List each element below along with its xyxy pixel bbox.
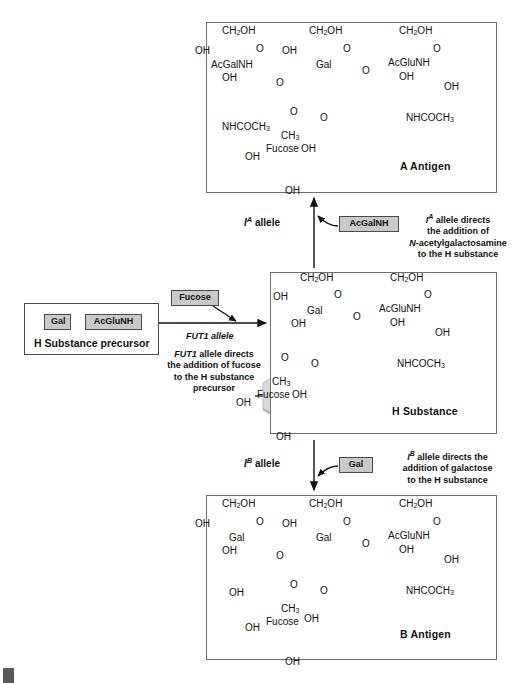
label-oh-a7: OH bbox=[245, 152, 260, 162]
ring-label-acglunh-h: AcGluNH bbox=[379, 304, 421, 314]
label-oh-b6: OH bbox=[444, 555, 459, 565]
label-oh-h7: OH bbox=[276, 432, 291, 442]
label-oh-b4: OH bbox=[282, 519, 297, 529]
label-oh-a8: OH bbox=[285, 186, 300, 196]
label-oh-h6: OH bbox=[236, 398, 251, 408]
hook-gal bbox=[318, 466, 338, 476]
label-o-link-a1: O bbox=[276, 78, 284, 88]
label-o-a4: O bbox=[433, 44, 441, 54]
diagram-canvas: A Antigen H Substance B Antigen CH2OH OH… bbox=[0, 0, 519, 683]
label-oh-b3: OH bbox=[229, 588, 244, 598]
label-o-a1: O bbox=[256, 44, 264, 54]
label-ch3-h: CH3 bbox=[272, 377, 290, 387]
label-o-b4: O bbox=[433, 517, 441, 527]
label-oh-b1: OH bbox=[195, 519, 210, 529]
label-nhcoch3-h: NHCOCH3 bbox=[397, 359, 445, 369]
ring-label-acglunh-b: AcGluNH bbox=[388, 531, 430, 541]
corner-marker bbox=[3, 668, 14, 683]
hook-fucose bbox=[213, 306, 236, 321]
label-oh-b9: OH bbox=[285, 657, 300, 667]
label-oh-b2: OH bbox=[222, 546, 237, 556]
panel-b-antigen bbox=[206, 495, 497, 660]
fut1-description: FUT1 allele directsthe addition of fucos… bbox=[156, 349, 272, 394]
ia-description: IA allele directsthe addition ofN-acetyl… bbox=[399, 213, 517, 260]
ring-label-acglunh-a: AcGluNH bbox=[388, 58, 430, 68]
chip-gal[interactable]: Gal bbox=[339, 457, 373, 473]
label-o-link-h: O bbox=[353, 312, 361, 322]
label-ch2oh-h1: CH2OH bbox=[300, 273, 333, 283]
label-ch2oh-h2: CH2OH bbox=[390, 273, 423, 283]
label-oh-a2: OH bbox=[222, 73, 237, 83]
label-o-link-a2: O bbox=[362, 66, 370, 76]
label-oh-h3: OH bbox=[390, 318, 405, 328]
panel-title-b-antigen: B Antigen bbox=[400, 628, 451, 640]
gene-label-fut1: FUT1 allele bbox=[186, 331, 234, 341]
ring-label-fucose-b: Fucose bbox=[266, 617, 299, 627]
label-oh-a6: OH bbox=[301, 144, 316, 154]
ring-label-fucose-a: Fucose bbox=[266, 144, 299, 154]
panel-h-substance bbox=[270, 272, 497, 434]
ring-label-gal-h: Gal bbox=[307, 306, 323, 316]
label-nhcoch3-a1: NHCOCH3 bbox=[222, 122, 270, 132]
panel-title-h-substance: H Substance bbox=[392, 405, 458, 417]
precursor-chip-acglunh[interactable]: AcGluNH bbox=[85, 314, 142, 330]
label-ch2oh-a2: CH2OH bbox=[309, 26, 342, 36]
label-oh-h1: OH bbox=[273, 292, 288, 302]
label-o-h1: O bbox=[334, 290, 342, 300]
hook-acgalnh bbox=[318, 216, 338, 226]
label-o-a5: O bbox=[290, 107, 298, 117]
label-o-b2: O bbox=[343, 517, 351, 527]
label-ch2oh-a1: CH2OH bbox=[222, 26, 255, 36]
label-o-b3: O bbox=[320, 586, 328, 596]
precursor-chip-gal[interactable]: Gal bbox=[44, 314, 71, 330]
allele-label-ia: IA allele bbox=[244, 215, 280, 228]
label-ch3-b: CH3 bbox=[281, 604, 299, 614]
label-o-link-b2: O bbox=[362, 539, 370, 549]
label-ch3-a: CH3 bbox=[281, 131, 299, 141]
label-oh-a5: OH bbox=[444, 82, 459, 92]
label-ch2oh-b1: CH2OH bbox=[222, 499, 255, 509]
label-nhcoch3-a2: NHCOCH3 bbox=[406, 113, 454, 123]
label-oh-a3: OH bbox=[282, 46, 297, 56]
label-oh-b8: OH bbox=[245, 623, 260, 633]
label-oh-b7: OH bbox=[304, 614, 319, 624]
ring-label-gal2-b: Gal bbox=[316, 533, 332, 543]
allele-label-ib: IB allele bbox=[244, 456, 280, 469]
label-o-a2: O bbox=[343, 44, 351, 54]
label-o-link-b1: O bbox=[276, 551, 284, 561]
label-oh-h4: OH bbox=[435, 328, 450, 338]
ring-label-acgalnh-a: AcGalNH bbox=[211, 60, 253, 70]
panel-a-antigen bbox=[206, 22, 497, 193]
label-o-a3: O bbox=[320, 113, 328, 123]
precursor-title: H Substance precursor bbox=[34, 337, 150, 349]
label-oh-b5: OH bbox=[399, 545, 414, 555]
label-ch2oh-b3: CH2OH bbox=[399, 499, 432, 509]
chip-fucose[interactable]: Fucose bbox=[171, 290, 219, 306]
label-o-h4: O bbox=[281, 353, 289, 363]
label-nhcoch3-b: NHCOCH3 bbox=[406, 586, 454, 596]
label-oh-h2: OH bbox=[291, 319, 306, 329]
label-o-h2: O bbox=[311, 359, 319, 369]
ib-description: IB allele directs theaddition of galacto… bbox=[382, 450, 513, 486]
label-ch2oh-b2: CH2OH bbox=[309, 499, 342, 509]
ring-label-gal1-b: Gal bbox=[229, 533, 245, 543]
ring-label-gal-a: Gal bbox=[316, 60, 332, 70]
label-oh-a1: OH bbox=[195, 46, 210, 56]
label-o-b5: O bbox=[290, 580, 298, 590]
panel-title-a-antigen: A Antigen bbox=[400, 160, 451, 172]
label-oh-a4: OH bbox=[399, 72, 414, 82]
label-ch2oh-a3: CH2OH bbox=[399, 26, 432, 36]
label-oh-h5: OH bbox=[292, 390, 307, 400]
chip-acgalnh[interactable]: AcGalNH bbox=[339, 216, 399, 232]
label-o-b1: O bbox=[256, 517, 264, 527]
label-o-h3: O bbox=[424, 290, 432, 300]
